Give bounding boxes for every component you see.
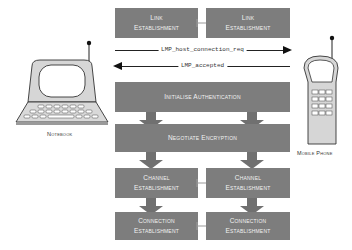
conn-right-line2: Establishment (226, 226, 271, 236)
link-left-line2: Establishment (134, 23, 179, 33)
conn-left-line1: Connection (134, 216, 179, 226)
link-right-line2: Establishment (226, 23, 271, 33)
encrypt-label: Negotiate Encryption (168, 133, 237, 143)
laptop-icon (12, 36, 112, 128)
initialise-authentication: Initialise Authentication (115, 82, 290, 112)
link-establishment-right: LinkEstablishment (206, 8, 290, 38)
message-host-connection-req: LMP_host_connection_req (115, 45, 290, 55)
connection-establishment-right: ConnectionEstablishment (206, 212, 290, 240)
link-left-line1: Link (134, 13, 179, 23)
negotiate-encryption: Negotiate Encryption (115, 124, 290, 152)
notebook-label: Notebook (47, 131, 72, 137)
conn-right-line1: Connection (226, 216, 271, 226)
link-establishment-left: LinkEstablishment (115, 8, 198, 38)
mobile-phone-device (298, 34, 346, 148)
message-accepted: LMP_accepted (115, 61, 290, 71)
arrow-right-icon (283, 46, 292, 54)
down-arrow-icon (139, 152, 163, 168)
channel-left-line2: Establishment (134, 183, 179, 193)
mobile-phone-label: Mobile Phone (297, 150, 333, 156)
link-right-line1: Link (226, 13, 271, 23)
notebook-device (12, 36, 112, 128)
auth-label: Initialise Authentication (164, 92, 240, 102)
channel-establishment-right: ChannelEstablishment (206, 168, 290, 198)
arrow-left-icon (113, 62, 122, 70)
channel-right-line1: Channel (226, 173, 271, 183)
channel-right-line2: Establishment (226, 183, 271, 193)
conn-left-line2: Establishment (134, 226, 179, 236)
channel-left-line1: Channel (134, 173, 179, 183)
connection-establishment-left: ConnectionEstablishment (115, 212, 198, 240)
down-arrow-icon (240, 152, 264, 168)
message-label: LMP_accepted (178, 61, 227, 71)
channel-establishment-left: ChannelEstablishment (115, 168, 198, 198)
message-label: LMP_host_connection_req (158, 45, 247, 55)
mobile-phone-icon (298, 34, 346, 148)
